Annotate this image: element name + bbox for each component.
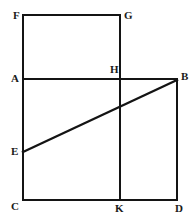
segments-group xyxy=(23,15,177,200)
segment-eb xyxy=(23,80,177,152)
vertex-label-h: H xyxy=(110,64,119,75)
vertex-label-k: K xyxy=(115,203,124,214)
vertex-label-g: G xyxy=(124,10,133,21)
vertex-label-f: F xyxy=(13,10,20,21)
vertex-label-b: B xyxy=(181,71,188,82)
figure-canvas xyxy=(0,0,196,223)
vertex-label-c: C xyxy=(11,201,19,212)
vertex-label-e: E xyxy=(11,146,18,157)
vertex-label-a: A xyxy=(11,73,19,84)
vertex-label-d: D xyxy=(175,203,183,214)
geometry-figure: FGAHBECKD xyxy=(0,0,196,223)
